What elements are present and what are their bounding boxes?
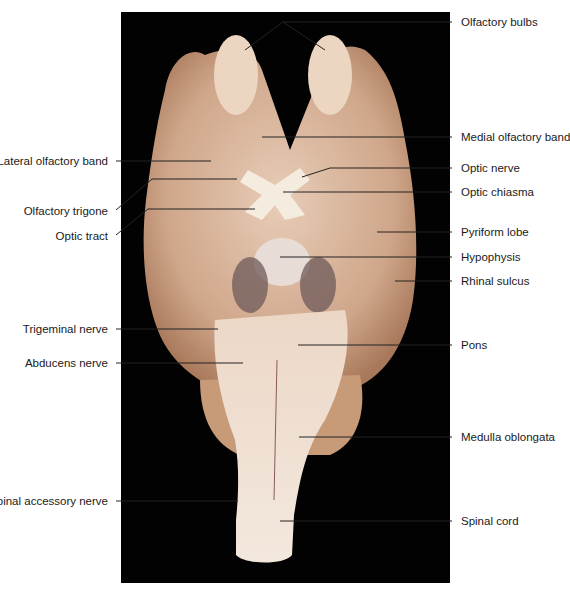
label-pons: Pons (461, 339, 487, 352)
label-spinal-accessory-nerve: Spinal accessory nerve (0, 495, 108, 508)
label-olfactory-bulbs: Olfactory bulbs (461, 16, 538, 29)
label-lateral-olfactory-band: Lateral olfactory band (0, 155, 108, 168)
label-olfactory-trigone: Olfactory trigone (24, 205, 108, 218)
label-optic-nerve: Optic nerve (461, 162, 520, 175)
label-abducens-nerve: Abducens nerve (25, 357, 108, 370)
label-hypophysis: Hypophysis (461, 251, 520, 264)
label-medial-olfactory-band: Medial olfactory band (461, 131, 570, 144)
label-optic-chiasma: Optic chiasma (461, 186, 534, 199)
label-trigeminal-nerve: Trigeminal nerve (23, 323, 108, 336)
label-rhinal-sulcus: Rhinal sulcus (461, 275, 529, 288)
label-spinal-cord: Spinal cord (461, 515, 519, 528)
label-medulla-oblongata: Medulla oblongata (461, 431, 555, 444)
label-optic-tract: Optic tract (56, 230, 108, 243)
label-pyriform-lobe: Pyriform lobe (461, 226, 529, 239)
